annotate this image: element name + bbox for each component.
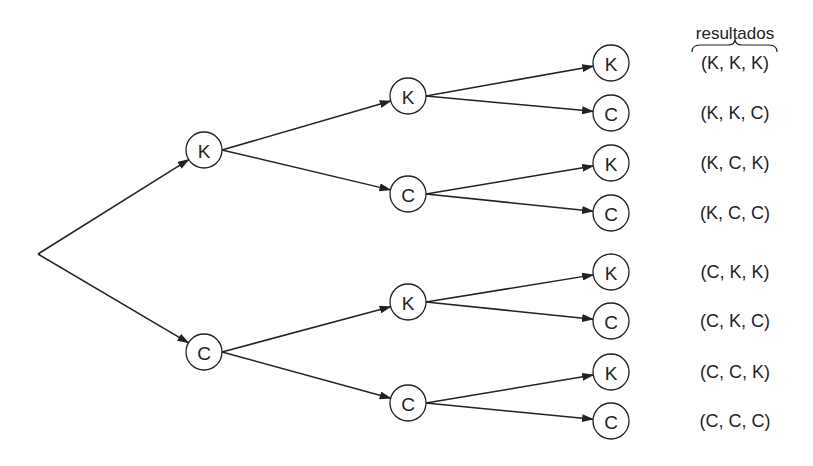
node-label: K	[402, 87, 415, 108]
outcome-label: (K, K, K)	[701, 53, 769, 73]
outcomes-column: resultados (K, K, K)(K, K, C)(K, C, K)(K…	[692, 24, 777, 432]
edge-to-l2-kk	[222, 101, 391, 150]
outcome-label: (K, C, K)	[700, 153, 769, 173]
edge-to-l1-c	[38, 254, 188, 343]
node-label: K	[198, 141, 211, 162]
node-label: K	[605, 154, 618, 175]
node-label: C	[401, 394, 415, 415]
node-label: C	[401, 185, 415, 206]
node-l2-kc: C	[390, 176, 426, 212]
edge-to-l2-cc	[222, 352, 391, 398]
edge-to-l3-ckk	[426, 275, 593, 302]
node-l3-cck: K	[593, 354, 629, 390]
outcome-label: (C, K, K)	[700, 262, 769, 282]
node-label: K	[605, 54, 618, 75]
edge-to-l3-kck	[426, 166, 593, 194]
node-l3-kkk: K	[593, 45, 629, 81]
node-l3-ckc: C	[593, 303, 629, 339]
node-label: C	[604, 412, 618, 433]
node-l2-ck: K	[390, 284, 426, 320]
outcome-label: (C, C, K)	[700, 362, 770, 382]
node-l2-cc: C	[390, 385, 426, 421]
edge-to-l1-k	[38, 160, 189, 254]
node-label: C	[604, 312, 618, 333]
node-l3-kck: K	[593, 145, 629, 181]
probability-tree-diagram: KCKCKCKCKCKCKC resultados (K, K, K)(K, K…	[0, 0, 813, 466]
node-l3-ckk: K	[593, 254, 629, 290]
node-l2-kk: K	[390, 78, 426, 114]
edge-to-l3-ckc	[426, 302, 593, 319]
edge-to-l3-ccc	[426, 403, 593, 419]
node-l3-ccc: C	[593, 403, 629, 439]
edge-to-l3-kcc	[426, 194, 593, 211]
outcome-label: (C, K, C)	[700, 311, 770, 331]
edge-to-l2-ck	[222, 307, 391, 352]
outcome-label: (C, C, C)	[700, 411, 771, 431]
edge-to-l3-kkc	[426, 96, 593, 111]
node-label: K	[605, 363, 618, 384]
node-l1-c: C	[186, 334, 222, 370]
node-label: C	[604, 104, 618, 125]
edge-to-l2-kc	[222, 150, 390, 190]
outcome-label: (K, K, C)	[700, 103, 769, 123]
node-label: K	[605, 263, 618, 284]
node-l3-kcc: C	[593, 195, 629, 231]
tree-edges	[38, 66, 593, 419]
outcome-label: (K, C, C)	[700, 203, 770, 223]
edge-to-l3-kkk	[426, 66, 593, 96]
edge-to-l3-cck	[426, 375, 593, 403]
node-label: C	[197, 343, 211, 364]
node-l1-k: K	[186, 132, 222, 168]
node-l3-kkc: C	[593, 95, 629, 131]
node-label: K	[402, 293, 415, 314]
node-label: C	[604, 204, 618, 225]
